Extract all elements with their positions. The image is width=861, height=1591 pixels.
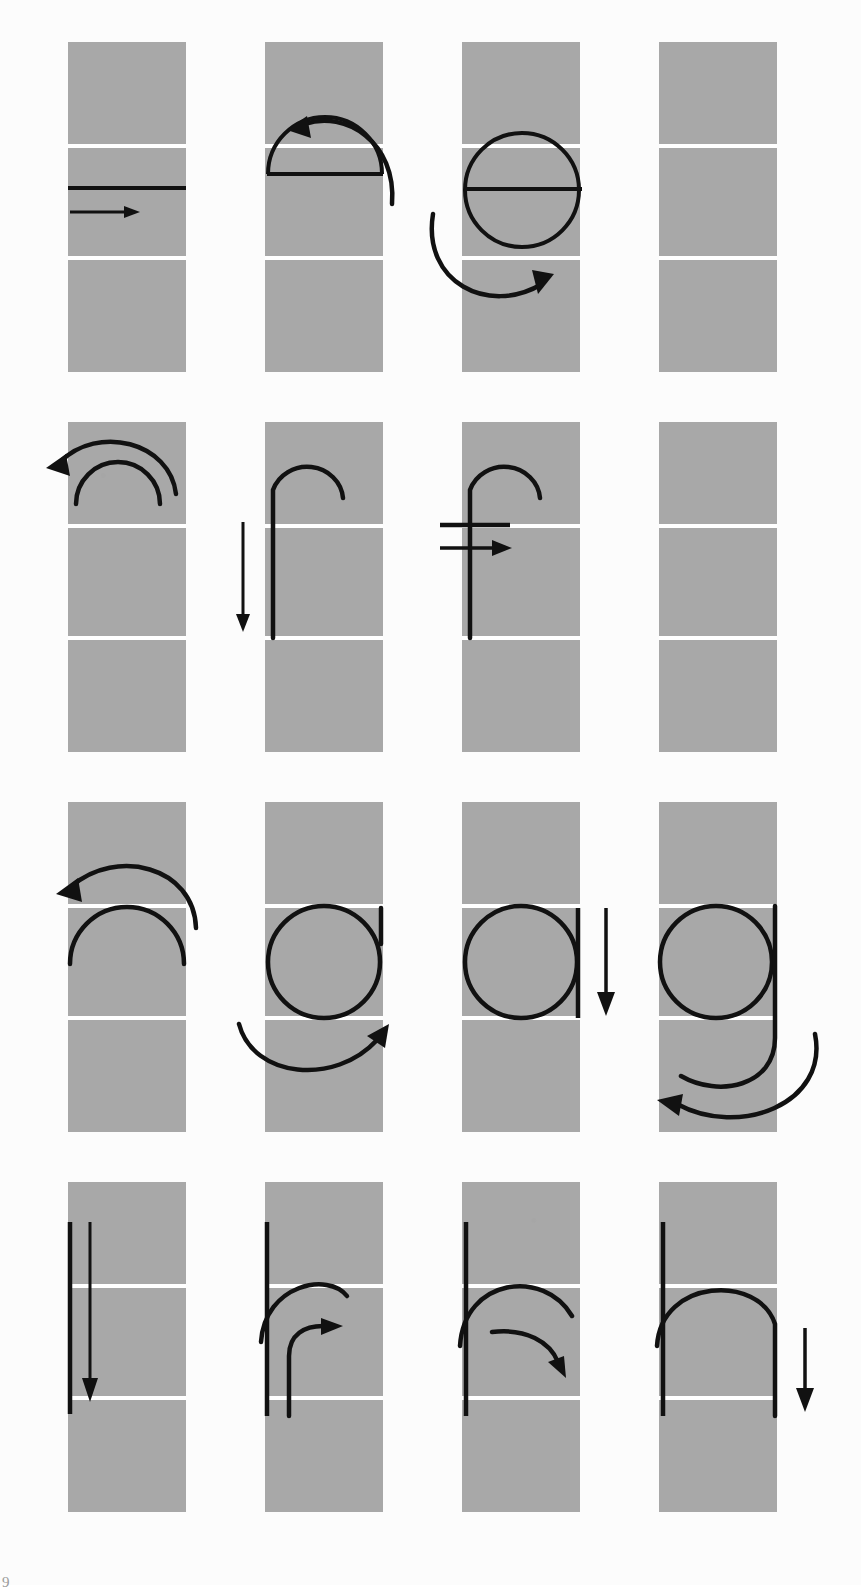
panel-r4c4 <box>659 1182 777 1512</box>
f-hook-and-stem <box>273 467 343 638</box>
arrow-curved-down-right <box>492 1331 566 1378</box>
panel-r3c1 <box>68 802 186 1132</box>
arrow-curved-up-right <box>239 1024 389 1070</box>
arrow-down <box>82 1222 98 1402</box>
panel-r1c3 <box>462 42 580 372</box>
arrow-curved-right <box>432 214 554 296</box>
panel-r4c1 <box>68 1182 186 1512</box>
inner-arc <box>76 462 160 504</box>
panel-r2c1 <box>68 422 186 752</box>
panel-r1c4 <box>659 42 777 372</box>
n-shoulder-arc <box>261 1284 347 1342</box>
panel-r3c4 <box>659 802 777 1132</box>
panel-r3c3 <box>462 802 580 1132</box>
arrow-curved-left <box>287 116 392 204</box>
g-bowl <box>465 906 577 1018</box>
page-number: 9 <box>2 1574 10 1591</box>
g-bowl <box>660 906 772 1018</box>
wide-inner-arc <box>70 907 184 964</box>
arrow-right <box>440 540 512 556</box>
arrow-down <box>236 522 250 632</box>
panel-artwork <box>589 26 861 406</box>
panel-r3c2 <box>265 802 383 1132</box>
panel-r2c4 <box>659 422 777 752</box>
panel-r2c3 <box>462 422 580 752</box>
panel-r1c1 <box>68 42 186 372</box>
arrow-curved-left <box>56 866 196 928</box>
panel-r1c2 <box>265 42 383 372</box>
panel-r2c2 <box>265 422 383 752</box>
panel-artwork <box>589 1166 861 1546</box>
arrow-down <box>796 1328 814 1412</box>
f-hook-and-stem <box>470 467 540 638</box>
g-bowl <box>268 906 380 1018</box>
panel-artwork <box>589 786 861 1186</box>
panel-r4c2 <box>265 1182 383 1512</box>
arrow-right <box>70 206 140 218</box>
n-shoulder-arc <box>460 1286 572 1346</box>
panel-artwork <box>589 406 861 786</box>
panel-r4c3 <box>462 1182 580 1512</box>
arrow-curved-up-right <box>289 1318 343 1416</box>
